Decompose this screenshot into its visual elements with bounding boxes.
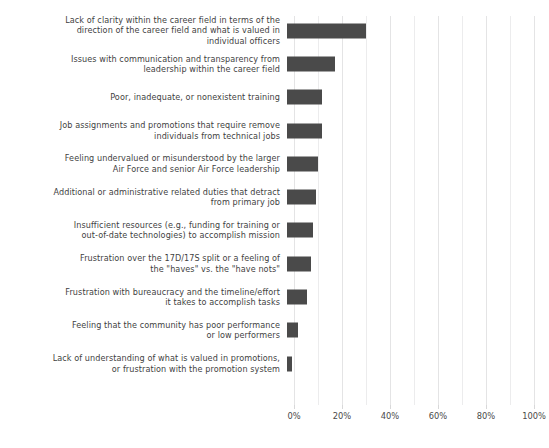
x-axis-tick-label: 40% (381, 411, 399, 421)
category-label: Frustration over the 17D/17S split or a … (0, 253, 287, 274)
bar (287, 256, 311, 271)
bar (287, 323, 298, 338)
chart-row: Frustration with bureaucracy and the tim… (0, 280, 549, 313)
category-label: Additional or administrative related dut… (0, 187, 287, 208)
chart-row: Frustration over the 17D/17S split or a … (0, 247, 549, 280)
bar-cell (287, 47, 549, 80)
chart-rows: Lack of clarity within the career field … (0, 14, 549, 380)
x-axis-tick-label: 80% (477, 411, 495, 421)
category-label: Feeling undervalued or misunderstood by … (0, 153, 287, 174)
bar-cell (287, 81, 549, 114)
bar-cell (287, 214, 549, 247)
bar-cell (287, 280, 549, 313)
bar-cell (287, 114, 549, 147)
bar (287, 23, 366, 38)
category-label: Lack of understanding of what is valued … (0, 353, 287, 374)
chart-row: Feeling undervalued or misunderstood by … (0, 147, 549, 180)
x-axis-tick (438, 405, 439, 409)
bar-chart: Lack of clarity within the career field … (0, 0, 549, 448)
category-label: Feeling that the community has poor perf… (0, 320, 287, 341)
x-axis-tick (342, 405, 343, 409)
bar-cell (287, 147, 549, 180)
chart-row: Insufficient resources (e.g., funding fo… (0, 214, 549, 247)
category-label: Frustration with bureaucracy and the tim… (0, 287, 287, 308)
x-axis-tick (534, 405, 535, 409)
x-axis-tick-label: 20% (333, 411, 351, 421)
bar-cell (287, 180, 549, 213)
chart-row: Feeling that the community has poor perf… (0, 314, 549, 347)
bar-cell (287, 14, 549, 47)
bar (287, 356, 292, 371)
x-axis-tick (390, 405, 391, 409)
chart-row: Additional or administrative related dut… (0, 180, 549, 213)
bar (287, 190, 316, 205)
category-label: Insufficient resources (e.g., funding fo… (0, 220, 287, 241)
x-axis-tick-label: 100% (522, 411, 546, 421)
category-label: Issues with communication and transparen… (0, 54, 287, 75)
chart-row: Lack of understanding of what is valued … (0, 347, 549, 380)
chart-row: Poor, inadequate, or nonexistent trainin… (0, 81, 549, 114)
bar (287, 156, 318, 171)
bar (287, 90, 322, 105)
category-label: Lack of clarity within the career field … (0, 15, 287, 46)
chart-row: Job assignments and promotions that requ… (0, 114, 549, 147)
bar-cell (287, 314, 549, 347)
bar (287, 290, 307, 305)
bar (287, 223, 313, 238)
bar (287, 123, 322, 138)
x-axis-tick (486, 405, 487, 409)
x-axis: 0%20%40%60%80%100% (294, 405, 534, 429)
bar-cell (287, 347, 549, 380)
category-label: Poor, inadequate, or nonexistent trainin… (0, 92, 287, 102)
x-axis-tick-label: 0% (287, 411, 300, 421)
chart-row: Lack of clarity within the career field … (0, 14, 549, 47)
x-axis-tick (294, 405, 295, 409)
x-axis-tick-label: 60% (429, 411, 447, 421)
chart-row: Issues with communication and transparen… (0, 47, 549, 80)
category-label: Job assignments and promotions that requ… (0, 120, 287, 141)
bar (287, 56, 335, 71)
bar-cell (287, 247, 549, 280)
